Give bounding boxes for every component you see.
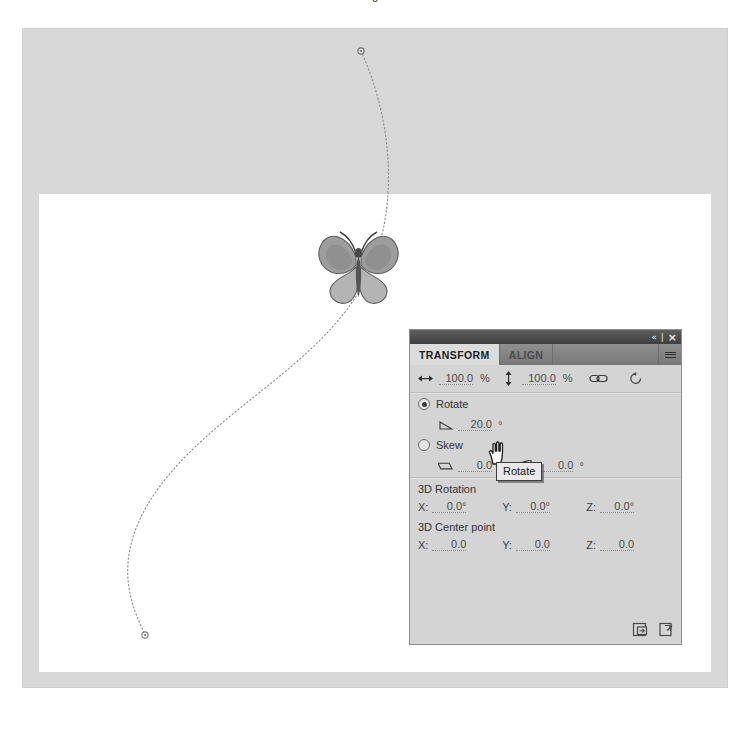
rotation-3d-z-input[interactable]: 0.0° xyxy=(600,500,634,513)
rotate-radio[interactable] xyxy=(418,398,430,410)
center-point-3d-z-label: Z: xyxy=(586,539,596,551)
tab-transform[interactable]: TRANSFORM xyxy=(410,344,500,365)
skew-radio[interactable] xyxy=(418,439,430,451)
center-point-3d-y-label: Y: xyxy=(502,539,512,551)
rotate-angle-input[interactable]: 20.0 xyxy=(458,418,492,431)
rotate-value-row: 20.0 ° xyxy=(410,414,681,435)
scale-height-icon xyxy=(501,371,516,386)
scale-width-input[interactable]: 100.0 xyxy=(439,372,473,385)
path-anchor-start xyxy=(358,48,364,54)
panel-footer xyxy=(632,621,675,638)
center-point-3d-y-cell: Y: 0.0 xyxy=(502,538,586,551)
scale-width-unit: % xyxy=(480,372,490,384)
rotation-3d-title: 3D Rotation xyxy=(410,479,681,496)
center-point-3d-z-cell: Z: 0.0 xyxy=(586,538,670,551)
constrain-link-icon[interactable] xyxy=(589,371,609,386)
scale-height-input[interactable]: 100.0 xyxy=(522,372,556,385)
panel-body: 100.0 % 100.0 % xyxy=(410,365,681,555)
rotate-angle-unit: ° xyxy=(498,419,502,431)
rotation-3d-row: X: 0.0° Y: 0.0° Z: 0.0° xyxy=(410,496,681,517)
skew-horizontal-unit: ° xyxy=(498,460,502,472)
tab-align[interactable]: ALIGN xyxy=(500,344,554,365)
collapse-panel-icon[interactable]: « xyxy=(651,333,657,342)
skew-vertical-icon xyxy=(519,458,534,473)
skew-radio-row[interactable]: Skew xyxy=(410,435,681,455)
center-point-3d-z-input[interactable]: 0.0 xyxy=(600,538,634,551)
panel-tab-strip[interactable]: TRANSFORM ALIGN xyxy=(410,344,681,365)
rotation-3d-y-cell: Y: 0.0° xyxy=(502,500,586,513)
center-point-3d-x-cell: X: 0.0 xyxy=(418,538,502,551)
rotation-3d-y-label: Y: xyxy=(502,501,512,513)
center-point-3d-title: 3D Center point xyxy=(410,517,681,534)
rotation-3d-x-input[interactable]: 0.0° xyxy=(432,500,466,513)
skew-vertical-input[interactable]: 0.0 xyxy=(539,459,573,472)
transform-panel[interactable]: « | × TRANSFORM ALIGN 100.0 % xyxy=(409,329,682,645)
duplicate-selection-and-transform-icon[interactable] xyxy=(632,621,649,638)
skew-label: Skew xyxy=(436,439,463,451)
butterfly-symbol[interactable] xyxy=(312,223,405,311)
center-point-3d-x-label: X: xyxy=(418,539,428,551)
rotation-3d-x-cell: X: 0.0° xyxy=(418,500,502,513)
titlebar-divider: | xyxy=(661,333,664,342)
rotation-3d-x-label: X: xyxy=(418,501,428,513)
center-point-3d-x-input[interactable]: 0.0 xyxy=(432,538,466,551)
remove-transform-icon[interactable] xyxy=(658,621,675,638)
panel-options-menu-icon[interactable] xyxy=(659,344,681,365)
caption-remnant: g xyxy=(0,0,750,4)
panel-titlebar[interactable]: « | × xyxy=(410,330,681,344)
skew-vertical-unit: ° xyxy=(579,460,583,472)
rotation-3d-y-input[interactable]: 0.0° xyxy=(516,500,550,513)
scale-height-unit: % xyxy=(563,372,573,384)
center-point-3d-row: X: 0.0 Y: 0.0 Z: 0.0 xyxy=(410,534,681,555)
rotate-label: Rotate xyxy=(436,398,468,410)
center-point-3d-y-input[interactable]: 0.0 xyxy=(516,538,550,551)
skew-horizontal-icon xyxy=(438,458,453,473)
rotation-3d-z-cell: Z: 0.0° xyxy=(586,500,670,513)
skew-value-row: 0.0 ° 0.0 ° xyxy=(410,455,681,476)
tab-filler xyxy=(553,344,659,365)
reset-transform-icon[interactable] xyxy=(629,371,644,386)
rotation-3d-z-label: Z: xyxy=(586,501,596,513)
rotate-angle-icon xyxy=(438,417,453,432)
scale-row: 100.0 % 100.0 % xyxy=(410,365,681,391)
rotate-radio-row[interactable]: Rotate xyxy=(410,394,681,414)
scale-width-icon xyxy=(418,371,433,386)
close-icon[interactable]: × xyxy=(668,333,677,342)
skew-horizontal-input[interactable]: 0.0 xyxy=(458,459,492,472)
